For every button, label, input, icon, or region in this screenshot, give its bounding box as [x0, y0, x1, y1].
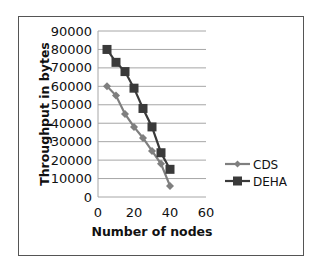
series-line [107, 86, 170, 186]
x-tick-label: 20 [126, 205, 143, 220]
legend-item-cds: CDS [225, 158, 278, 172]
y-tick-label: 10000 [51, 171, 92, 186]
diamond-marker [166, 182, 174, 190]
data-series [103, 45, 175, 190]
legend-label: DEHA [253, 175, 288, 189]
diamond-marker [234, 161, 241, 168]
square-marker [157, 148, 166, 157]
x-axis-ticks: 0204060 [94, 205, 214, 220]
y-tick-label: 40000 [51, 116, 92, 131]
square-marker [121, 67, 130, 76]
y-tick-label: 70000 [51, 60, 92, 75]
x-tick-label: 40 [162, 205, 179, 220]
y-axis-title: Throughput in bytes [37, 42, 52, 186]
square-marker [130, 84, 139, 93]
series-deha [103, 45, 175, 174]
square-marker [166, 165, 175, 174]
y-tick-label: 0 [84, 190, 92, 205]
y-tick-label: 30000 [51, 134, 92, 149]
square-marker [139, 104, 148, 113]
square-marker [148, 122, 157, 131]
y-tick-label: 90000 [51, 24, 92, 39]
x-tick-label: 60 [198, 205, 215, 220]
legend: CDSDEHA [225, 158, 288, 189]
x-tick-label: 0 [94, 205, 102, 220]
y-tick-label: 50000 [51, 97, 92, 112]
square-marker [233, 177, 242, 186]
y-tick-label: 20000 [51, 153, 92, 168]
y-axis-ticks: 0100002000030000400005000060000700008000… [51, 24, 92, 205]
gridlines [98, 31, 206, 197]
line-chart: 0100002000030000400005000060000700008000… [0, 0, 319, 269]
legend-item-deha: DEHA [225, 175, 288, 189]
square-marker [103, 45, 112, 54]
x-axis-title: Number of nodes [91, 224, 212, 239]
y-tick-label: 60000 [51, 79, 92, 94]
y-tick-label: 80000 [51, 42, 92, 57]
legend-label: CDS [253, 158, 278, 172]
square-marker [112, 58, 121, 67]
